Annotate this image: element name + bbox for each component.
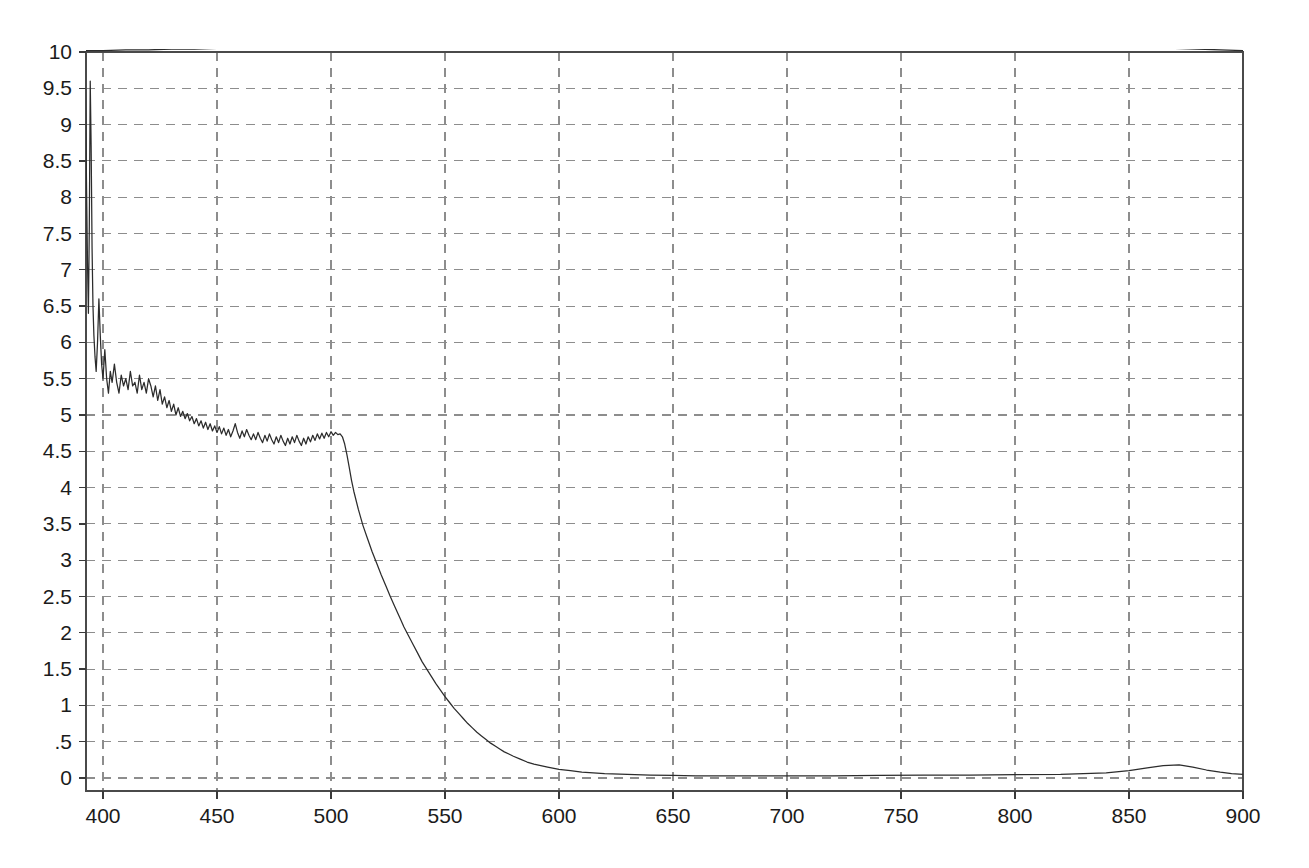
y-tick-label: 1 xyxy=(60,693,72,716)
x-tick-label: 600 xyxy=(541,804,576,827)
y-tick-label: .5 xyxy=(54,730,72,753)
data-series-group xyxy=(85,32,1243,776)
x-tick-label: 700 xyxy=(769,804,804,827)
y-tick-label: 7.5 xyxy=(43,222,72,245)
screenshot-page: 0.511.522.533.544.555.566.577.588.599.51… xyxy=(0,0,1309,868)
y-tick-label: 2.5 xyxy=(43,585,72,608)
tick-marks-group xyxy=(79,52,1243,799)
y-tick-label: 8.5 xyxy=(43,149,72,172)
y-axis-labels-group: 0.511.522.533.544.555.566.577.588.599.51… xyxy=(43,40,73,789)
x-tick-label: 400 xyxy=(85,804,120,827)
y-tick-label: 5.5 xyxy=(43,367,72,390)
chart-svg: 0.511.522.533.544.555.566.577.588.599.51… xyxy=(0,0,1309,868)
y-tick-label: 3.5 xyxy=(43,512,72,535)
y-tick-label: 3 xyxy=(60,548,72,571)
spectral-chart: 0.511.522.533.544.555.566.577.588.599.51… xyxy=(0,0,1309,868)
x-tick-label: 450 xyxy=(199,804,234,827)
y-tick-label: 9.5 xyxy=(43,76,72,99)
y-tick-label: 8 xyxy=(60,185,72,208)
y-tick-label: 4.5 xyxy=(43,439,72,462)
y-tick-label: 2 xyxy=(60,621,72,644)
y-tick-label: 4 xyxy=(60,476,72,499)
x-tick-label: 550 xyxy=(427,804,462,827)
gridlines-group xyxy=(86,52,1243,791)
x-tick-label: 500 xyxy=(313,804,348,827)
y-tick-label: 6 xyxy=(60,330,72,353)
y-tick-label: 0 xyxy=(60,766,72,789)
x-tick-label: 800 xyxy=(997,804,1032,827)
y-tick-label: 5 xyxy=(60,403,72,426)
y-tick-label: 1.5 xyxy=(43,657,72,680)
x-tick-label: 650 xyxy=(655,804,690,827)
axis-frame-group xyxy=(86,52,1243,791)
y-tick-label: 10 xyxy=(49,40,72,63)
y-tick-label: 7 xyxy=(60,258,72,281)
y-tick-label: 9 xyxy=(60,113,72,136)
y-tick-label: 6.5 xyxy=(43,294,72,317)
x-tick-label: 850 xyxy=(1111,804,1146,827)
x-axis-labels-group: 400450500550600650700750800850900 xyxy=(85,804,1260,827)
x-tick-label: 900 xyxy=(1225,804,1260,827)
x-tick-label: 750 xyxy=(883,804,918,827)
plot-border xyxy=(86,52,1243,791)
series-line-upper-trace xyxy=(85,32,1243,51)
